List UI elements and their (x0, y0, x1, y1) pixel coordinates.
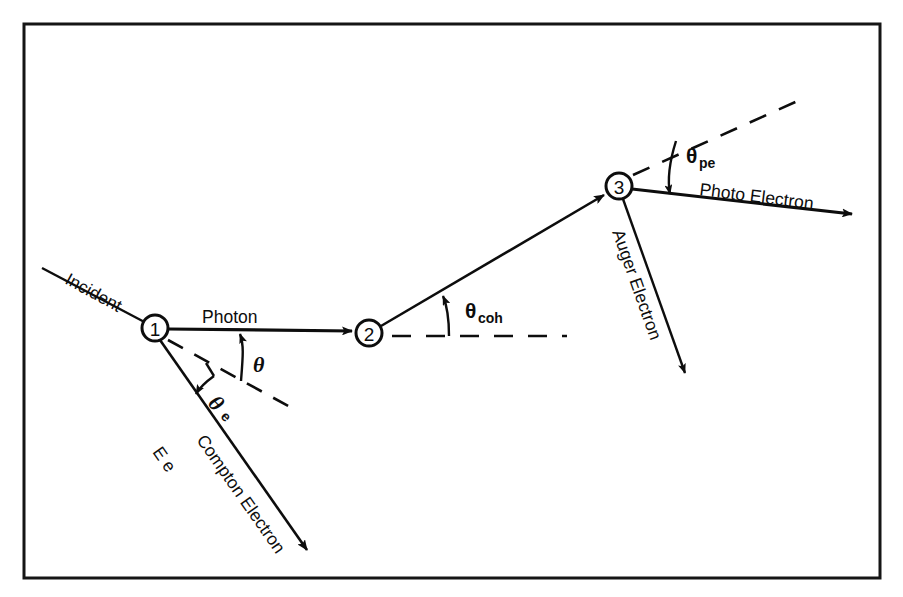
compton-electron-label: Compton Electron (193, 431, 290, 557)
figure-border (24, 24, 880, 578)
vertex3-axis-dashed (633, 99, 802, 175)
theta-e-arc (196, 376, 214, 394)
theta-pe-subscript: pe (699, 155, 716, 171)
auger-electron-label: Auger Electron (608, 227, 665, 343)
vertex-1-label: 1 (150, 319, 161, 340)
theta-e-arc-stem (206, 363, 214, 376)
vertex-2-label: 2 (364, 324, 375, 345)
photo-electron-label: Photo Electron (698, 179, 814, 213)
incident-label: Incident (62, 269, 126, 316)
interaction-diagram: 1 2 3 Incident Photon Compton Electron E… (0, 0, 903, 597)
theta-label: θ (253, 352, 265, 377)
vertex-3-label: 3 (614, 177, 625, 198)
compton-energy-label: E e (149, 443, 180, 476)
theta-coh-arc (443, 296, 449, 336)
theta-pe-label: θ (686, 144, 697, 167)
coherent-photon-ray (381, 195, 604, 326)
theta-coh-label: θ (465, 299, 476, 322)
photon-label: Photon (202, 307, 257, 327)
theta-pe-arc (669, 141, 676, 194)
figure-container: 1 2 3 Incident Photon Compton Electron E… (0, 0, 903, 597)
theta-arc (240, 334, 243, 381)
theta-coh-subscript: coh (478, 310, 503, 326)
compton-electron-ray (160, 340, 307, 550)
theta-e-subscript: e (218, 408, 235, 425)
scattered-photon-ray (168, 329, 352, 331)
